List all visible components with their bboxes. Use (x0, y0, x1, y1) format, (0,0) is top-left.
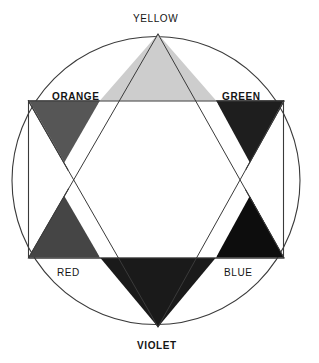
label-blue: BLUE (224, 268, 253, 278)
color-wheel-figure: YELLOW ORANGE GREEN RED BLUE VIOLET (0, 0, 319, 363)
label-green: GREEN (222, 92, 261, 102)
label-orange: ORANGE (52, 92, 100, 102)
label-violet: VIOLET (137, 341, 177, 351)
inner-hexagon (64, 101, 250, 258)
label-yellow: YELLOW (133, 14, 178, 24)
star-color-wheel-svg (0, 0, 319, 363)
label-red: RED (57, 268, 80, 278)
